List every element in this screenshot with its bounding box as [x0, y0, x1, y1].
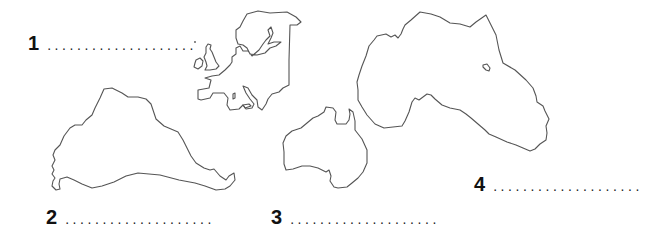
item-number: 4 — [474, 174, 485, 194]
australia-outline — [283, 107, 367, 188]
africa-outline — [357, 12, 549, 151]
item-number: 3 — [271, 207, 282, 227]
answer-blank[interactable]: .................... — [493, 179, 643, 193]
answer-line-1[interactable]: 1 .................... — [28, 33, 197, 53]
south-america-outline — [52, 88, 235, 190]
item-number: 2 — [46, 207, 57, 227]
answer-line-2[interactable]: 2 .................... — [46, 207, 215, 227]
item-number: 1 — [28, 33, 39, 53]
answer-blank[interactable]: .................... — [47, 38, 197, 52]
europe-outline — [194, 11, 301, 110]
answer-blank[interactable]: .................... — [65, 212, 215, 226]
answer-blank[interactable]: .................... — [290, 212, 440, 226]
answer-line-4[interactable]: 4 .................... — [474, 174, 643, 194]
answer-line-3[interactable]: 3 .................... — [271, 207, 440, 227]
